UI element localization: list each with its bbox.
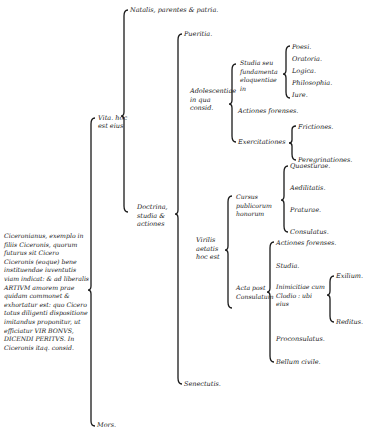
- studia-item: Oratoria.: [292, 55, 322, 64]
- cursus-item: Quaesturae.: [290, 162, 330, 171]
- node-studia: Studia seu fundamenta eloquentiae in: [240, 59, 284, 93]
- root-description: Ciceronianus, exemplo in filiis Ciceroni…: [4, 232, 90, 352]
- node-senectus: Senectutis.: [184, 380, 221, 389]
- node-adolescentia: Adolescentiae in qua consid.: [190, 87, 230, 113]
- node-cursus: Cursus publicorum honorum: [236, 193, 282, 219]
- node-acta: Acta post Consulatum: [236, 284, 266, 301]
- node-pueritia: Pueritia.: [184, 30, 212, 39]
- node-mors: Mors.: [97, 421, 116, 430]
- acta-item-inimicitiae: Inimicitiae cum Clodio : ubi eius: [276, 283, 326, 309]
- node-doctrina: Doctrina, studia & actiones: [137, 203, 179, 229]
- bracket-lines: [0, 0, 369, 438]
- studia-item: Philosophia.: [292, 79, 332, 88]
- exercitationes-item: Frictiones.: [298, 123, 333, 132]
- cursus-item: Aedilitatis.: [290, 184, 326, 193]
- node-exercitationes: Exercitationes: [238, 138, 286, 147]
- studia-item: Poesi.: [292, 43, 311, 52]
- acta-item: Actiones forenses.: [276, 239, 336, 248]
- acta-item: Bellum civile.: [276, 358, 321, 367]
- acta-item: Studia.: [276, 262, 299, 271]
- studia-item: Iure.: [292, 91, 308, 100]
- studia-item: Logica.: [292, 67, 316, 76]
- node-vita: Vita. hoc est eius: [98, 114, 128, 130]
- cursus-item: Praturae.: [290, 206, 321, 215]
- node-natalis: Natalis, parentes & patria.: [130, 6, 218, 15]
- cursus-item: Consulatus.: [290, 228, 329, 237]
- inimicitiae-item: Reditus.: [336, 318, 363, 327]
- acta-item: Proconsulatus.: [276, 335, 325, 344]
- node-virilis: Virilis aetatis hoc est: [196, 236, 226, 262]
- node-actiones-forenses: Actiones forenses.: [238, 107, 298, 116]
- inimicitiae-item: Exilium.: [336, 272, 363, 281]
